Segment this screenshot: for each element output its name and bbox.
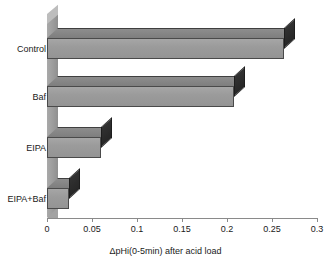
bar-front-face	[47, 137, 101, 158]
bar-front-face	[47, 188, 69, 209]
bar-eipa-baf	[47, 178, 80, 209]
bar-baf	[47, 76, 245, 107]
category-label-text: Control	[17, 44, 46, 54]
category-label-control: Control	[0, 44, 46, 54]
x-axis-tick-label: 0	[44, 224, 49, 234]
x-axis-tick	[47, 218, 48, 222]
bar-chart: Control Baf EIPA EIPA+Baf 00.050.10.150.…	[0, 0, 331, 267]
bar-eipa	[47, 127, 112, 158]
bar-control	[47, 28, 295, 59]
category-label-text: EIPA	[26, 143, 46, 153]
x-axis-tick-label: 0.3	[311, 224, 324, 234]
bar-side-face	[69, 168, 80, 199]
category-label-text: EIPA+Baf	[7, 194, 46, 204]
x-axis-tick	[92, 218, 93, 222]
bar-top-face	[47, 76, 245, 86]
x-axis-tick-label: 0.25	[263, 224, 281, 234]
category-label-eipa-baf: EIPA+Baf	[0, 194, 46, 204]
x-axis-tick	[227, 218, 228, 222]
bar-side-face	[284, 18, 295, 49]
bar-side-face	[101, 117, 112, 148]
bar-side-face	[234, 66, 245, 97]
x-axis-tick-label: 0.1	[131, 224, 144, 234]
category-label-eipa: EIPA	[0, 143, 46, 153]
category-label-text: Baf	[32, 92, 46, 102]
bar-front-face	[47, 38, 284, 59]
x-axis-title: ΔpHi(0-5min) after acid load	[0, 246, 331, 256]
x-axis-tick-label: 0.2	[221, 224, 234, 234]
x-axis-tick	[317, 218, 318, 222]
x-axis-tick	[272, 218, 273, 222]
x-axis-tick-label: 0.05	[83, 224, 101, 234]
x-axis-tick-label: 0.15	[173, 224, 191, 234]
x-axis-tick	[137, 218, 138, 222]
x-axis-tick	[182, 218, 183, 222]
bar-front-face	[47, 86, 234, 107]
category-label-baf: Baf	[0, 92, 46, 102]
bar-top-face	[47, 28, 295, 38]
